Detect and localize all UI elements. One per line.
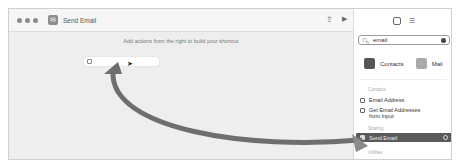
- play-icon[interactable]: ▶: [342, 15, 347, 23]
- minimize-button[interactable]: [25, 18, 30, 23]
- close-button[interactable]: [17, 18, 22, 23]
- action-icon: [87, 59, 92, 64]
- contacts-app-icon: [364, 58, 375, 69]
- title-bar: ✉ Send Email ⇪ ▶: [9, 9, 353, 32]
- shortcut-editor-canvas[interactable]: Add actions from the right to build your…: [9, 32, 353, 160]
- action-send-email[interactable]: Send Email: [356, 133, 452, 142]
- details-icon[interactable]: ☰: [409, 17, 415, 25]
- action-label: Get Email Addresses from Input: [369, 107, 430, 119]
- share-icon[interactable]: ⇪: [326, 15, 333, 24]
- search-input[interactable]: 🔍︎ email: [358, 35, 450, 45]
- section-header: Utilities: [368, 150, 383, 155]
- window-controls: [17, 18, 38, 23]
- action-label: Email Address: [369, 97, 404, 103]
- contacts-action-icon: [360, 98, 365, 103]
- mail-action-icon: [360, 135, 365, 140]
- action-email-address[interactable]: Email Address: [360, 97, 404, 103]
- app-label: Contacts: [380, 61, 404, 67]
- shortcut-icon[interactable]: ✉: [48, 15, 58, 25]
- search-value: email: [373, 37, 441, 43]
- action-library-icon[interactable]: [393, 17, 401, 25]
- section-header: Sharing: [368, 126, 384, 131]
- clear-search-icon[interactable]: [441, 38, 446, 43]
- mail-app-icon: [416, 58, 427, 69]
- divider: [360, 79, 447, 80]
- app-contacts[interactable]: Contacts: [364, 58, 404, 69]
- action-drop-slot[interactable]: [84, 57, 159, 66]
- app-label: Mail: [432, 61, 443, 67]
- sidebar-toolbar: ☰: [354, 9, 452, 32]
- mouse-cursor-icon: ➤: [127, 60, 133, 68]
- app-suggestions: Contacts Mail: [364, 58, 443, 69]
- section-header: Contacts: [368, 87, 386, 92]
- contacts-action-icon: [360, 108, 365, 113]
- empty-hint: Add actions from the right to build your…: [9, 38, 353, 44]
- action-label: Send Email: [369, 135, 397, 141]
- window-title[interactable]: Send Email: [63, 17, 96, 24]
- action-get-email-addresses[interactable]: Get Email Addresses from Input: [360, 107, 430, 119]
- zoom-button[interactable]: [33, 18, 38, 23]
- search-icon: 🔍︎: [362, 37, 370, 44]
- info-icon[interactable]: [443, 135, 448, 140]
- shortcuts-window: ✉ Send Email ⇪ ▶ Add actions from the ri…: [8, 8, 452, 160]
- app-mail[interactable]: Mail: [416, 58, 443, 69]
- action-library-sidebar: ☰ 🔍︎ email Contacts Mail Contacts Email …: [353, 9, 452, 160]
